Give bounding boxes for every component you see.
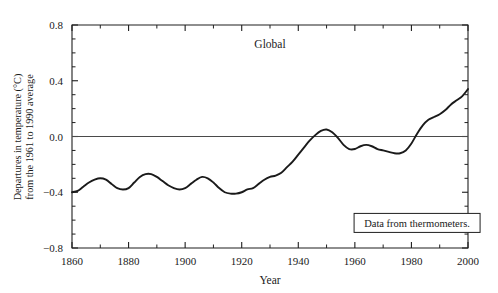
x-tick-label: 2000: [457, 255, 480, 267]
annotation-group: Data from thermometers.: [354, 213, 480, 232]
x-tick-label: 1980: [400, 255, 423, 267]
data-source-note-text: Data from thermometers.: [364, 218, 470, 229]
y-axis-tick-labels: −0.8−0.40.00.40.8: [43, 19, 63, 254]
y-tick-label: 0.8: [49, 19, 63, 31]
y-tick-label: −0.8: [43, 242, 63, 254]
x-axis-title: Year: [259, 274, 280, 286]
figure-container: 18601880190019201940196019802000 −0.8−0.…: [0, 0, 498, 293]
x-tick-label: 1860: [61, 255, 84, 267]
y-axis-title-line1: Departures in temperature (°C): [12, 74, 24, 201]
y-tick-label: −0.4: [43, 186, 63, 198]
x-axis-tick-labels: 18601880190019201940196019802000: [61, 255, 480, 267]
y-axis-title-line2: from the 1961 to 1990 average: [24, 74, 35, 200]
x-tick-label: 1880: [118, 255, 141, 267]
temperature-anomaly-chart: 18601880190019201940196019802000 −0.8−0.…: [0, 0, 498, 293]
temperature-series-line: [72, 89, 468, 194]
plot-title: Global: [254, 38, 285, 50]
x-tick-label: 1900: [174, 255, 197, 267]
x-tick-label: 1920: [231, 255, 254, 267]
x-tick-label: 1960: [344, 255, 367, 267]
y-tick-label: 0.4: [49, 75, 63, 87]
y-axis-title: Departures in temperature (°C) from the …: [12, 74, 35, 201]
x-tick-label: 1940: [287, 255, 310, 267]
series-path: [72, 89, 468, 194]
y-tick-label: 0.0: [49, 131, 63, 143]
